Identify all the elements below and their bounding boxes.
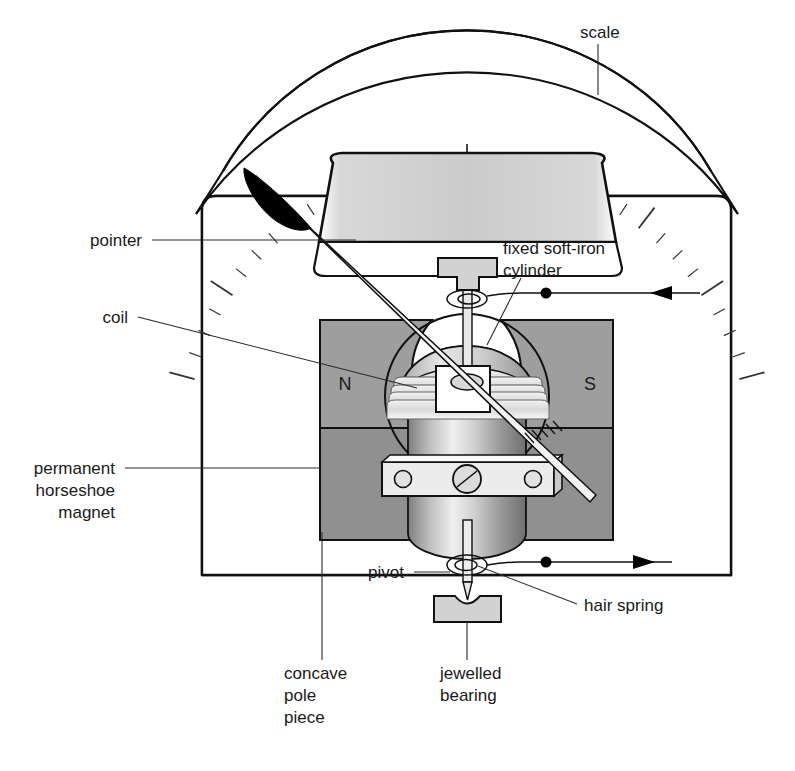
label-permanent-magnet-3: magnet xyxy=(58,503,115,522)
label-jewelled-bearing-1: jewelled xyxy=(439,664,501,683)
label-south-pole: S xyxy=(584,374,596,394)
label-fixed-cylinder-1: fixed soft-iron xyxy=(503,239,605,258)
label-permanent-magnet-1: permanent xyxy=(34,459,116,478)
label-fixed-cylinder-2: cylinder xyxy=(503,261,562,280)
label-concave-pole-1: concave xyxy=(284,664,347,683)
meter-body-top xyxy=(319,153,616,242)
label-scale: scale xyxy=(580,23,620,42)
spindle-lower xyxy=(463,520,472,582)
label-coil: coil xyxy=(102,308,128,327)
diagram-canvas: scale pointer coil permanent horseshoe m… xyxy=(0,0,795,771)
terminal-dot-icon xyxy=(541,557,552,568)
label-pivot: pivot xyxy=(368,563,404,582)
label-concave-pole-3: piece xyxy=(284,708,325,727)
label-pointer: pointer xyxy=(90,231,142,250)
clamp-screw-right xyxy=(525,471,542,488)
terminal-dot-icon xyxy=(541,288,552,299)
label-north-pole: N xyxy=(339,374,352,394)
clamp-screw-left xyxy=(395,471,412,488)
label-concave-pole-2: pole xyxy=(284,686,316,705)
moving-coil-meter-diagram: scale pointer coil permanent horseshoe m… xyxy=(0,0,795,771)
clamp-bar-top xyxy=(382,455,562,462)
label-permanent-magnet-2: horseshoe xyxy=(36,481,115,500)
label-hair-spring: hair spring xyxy=(584,596,663,615)
label-jewelled-bearing-2: bearing xyxy=(440,686,497,705)
